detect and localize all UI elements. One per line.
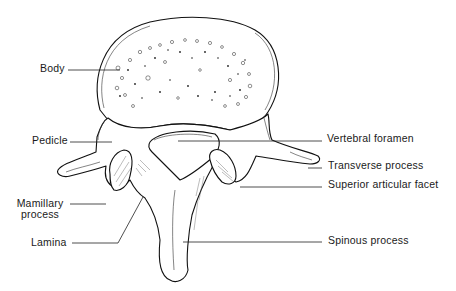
vertebral-body-shape [97,17,278,130]
label-transverse-process: Transverse process [328,160,423,171]
label-pedicle: Pedicle [32,135,68,146]
neural-arch-shape [58,114,320,282]
label-superior-articular-facet: Superior articular facet [328,179,438,190]
label-mamillary-line2: process [14,209,66,220]
label-spinous-process: Spinous process [328,235,409,246]
label-vertebral-foramen: Vertebral foramen [327,133,414,144]
label-body: Body [40,63,65,74]
label-mamillary-process: Mamillary process [14,198,66,220]
label-lamina: Lamina [31,237,67,248]
vertebra-diagram: Body Pedicle Vertebral foramen Transvers… [0,0,456,291]
vertebra-illustration [0,0,456,291]
